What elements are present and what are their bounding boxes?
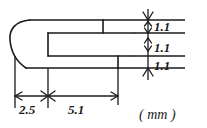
technical-drawing-canvas: 1.1 1.1 1.1 2.5 5.1 ( mm )	[0, 0, 207, 128]
unit-label: ( mm )	[139, 107, 176, 123]
left-rounded-cap-outer	[10, 20, 30, 68]
inner-slot-outline	[48, 33, 134, 56]
horizontal-dimension-group	[15, 56, 118, 108]
vertical-dim-label-3: 1.1	[154, 58, 170, 73]
vertical-dim-label-2: 1.1	[154, 40, 170, 55]
horizontal-dim-label-1: 2.5	[18, 102, 36, 117]
vertical-dim-label-1: 1.1	[154, 19, 170, 34]
profile-outline	[10, 20, 118, 68]
vertical-dimension-group	[103, 9, 185, 80]
horizontal-dim-label-2: 5.1	[68, 102, 84, 117]
